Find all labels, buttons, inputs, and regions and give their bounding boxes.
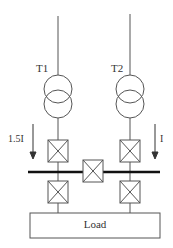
transformer-t1-label: T1 (36, 63, 48, 74)
transformer-t1-icon (44, 75, 72, 118)
transformer-t2-icon (116, 75, 144, 118)
breaker-t1-upper-icon (48, 140, 68, 162)
current-label-right: I (160, 134, 163, 144)
load-label: Load (30, 219, 160, 230)
transformer-t2-label: T2 (111, 63, 123, 74)
breaker-t2-lower-icon (120, 181, 140, 203)
current-label-left: 1.5I (8, 134, 24, 144)
one-line-diagram (0, 0, 173, 248)
breaker-t2-upper-icon (120, 140, 140, 162)
bus-tie-breaker-icon (83, 160, 103, 182)
breaker-t1-lower-icon (48, 181, 68, 203)
